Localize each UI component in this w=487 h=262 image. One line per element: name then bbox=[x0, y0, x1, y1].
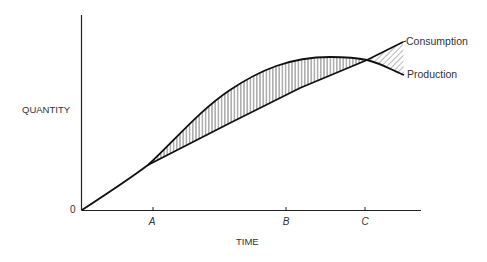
production-label: Production bbox=[407, 68, 457, 80]
consumption-line bbox=[82, 42, 403, 210]
tick-label-b: B bbox=[283, 216, 290, 227]
consumption-label: Consumption bbox=[406, 35, 468, 47]
y-axis-label: QUANTITY bbox=[22, 104, 70, 115]
tick-label-a: A bbox=[149, 216, 156, 227]
tick-label-c: C bbox=[361, 216, 368, 227]
chart-root: QUANTITY 0 TIME A B C Consumption Produc… bbox=[0, 0, 487, 262]
x-axis-label: TIME bbox=[236, 236, 259, 247]
origin-label: 0 bbox=[70, 204, 76, 215]
